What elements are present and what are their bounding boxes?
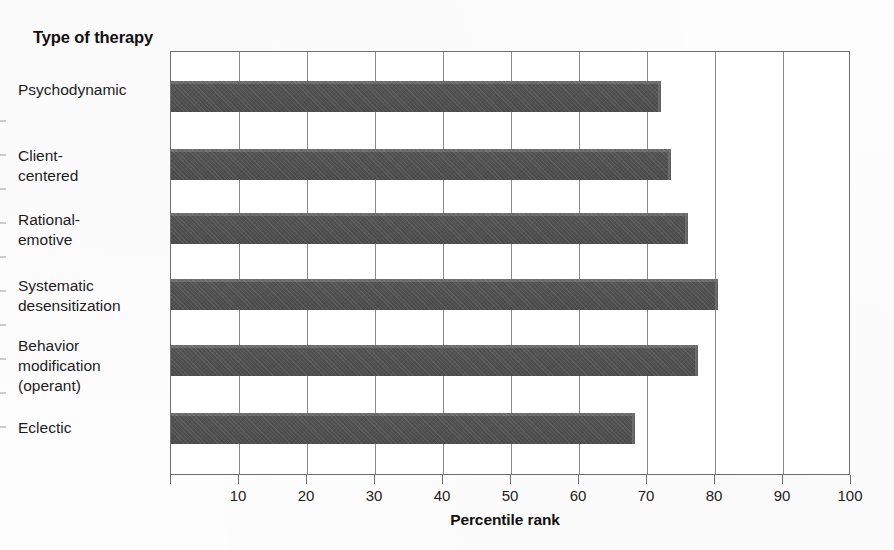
gridline-70 <box>647 52 648 474</box>
category-label: Eclectic <box>18 418 160 438</box>
bar <box>171 279 718 310</box>
bar <box>171 149 671 180</box>
gridline-50 <box>511 52 512 474</box>
x-tick-label-40: 40 <box>434 487 451 504</box>
x-tick-label-20: 20 <box>298 487 315 504</box>
category-label: Systematic desensitization <box>18 276 160 316</box>
gridline-10 <box>239 52 240 474</box>
category-label: Psychodynamic <box>18 80 160 100</box>
category-label: Client- centered <box>18 146 160 186</box>
bar <box>171 345 698 376</box>
x-tick-mark-70 <box>646 475 647 484</box>
category-label: Rational- emotive <box>18 210 160 250</box>
x-tick-mark-50 <box>510 475 511 484</box>
gridline-30 <box>375 52 376 474</box>
bar-end-cap <box>715 279 718 310</box>
x-tick-label-80: 80 <box>706 487 723 504</box>
gridline-60 <box>579 52 580 474</box>
bar-end-cap <box>658 81 661 112</box>
x-tick-label-70: 70 <box>638 487 655 504</box>
x-tick-mark-60 <box>578 475 579 484</box>
x-tick-mark-100 <box>850 475 851 484</box>
x-tick-mark-0 <box>170 475 171 484</box>
x-tick-mark-40 <box>442 475 443 484</box>
bar-end-cap <box>695 345 698 376</box>
bar-end-cap <box>668 149 671 180</box>
x-tick-label-30: 30 <box>366 487 383 504</box>
x-tick-label-60: 60 <box>570 487 587 504</box>
plot-area <box>170 51 850 475</box>
gridline-20 <box>307 52 308 474</box>
x-tick-mark-10 <box>238 475 239 484</box>
bar <box>171 81 661 112</box>
x-tick-label-50: 50 <box>502 487 519 504</box>
bar <box>171 213 688 244</box>
gridline-80 <box>715 52 716 474</box>
bar <box>171 413 635 444</box>
category-label-column: PsychodynamicClient- centeredRational- e… <box>0 0 168 550</box>
x-tick-label-10: 10 <box>230 487 247 504</box>
gridline-40 <box>443 52 444 474</box>
x-axis-label-container: Percentile rank <box>0 511 894 529</box>
bar-end-cap <box>632 413 635 444</box>
x-tick-mark-90 <box>782 475 783 484</box>
x-tick-label-100: 100 <box>837 487 862 504</box>
category-label: Behavior modification (operant) <box>18 336 160 396</box>
x-tick-mark-80 <box>714 475 715 484</box>
x-tick-mark-20 <box>306 475 307 484</box>
x-tick-label-90: 90 <box>774 487 791 504</box>
x-tick-mark-30 <box>374 475 375 484</box>
bar-chart-figure: Type of therapy PsychodynamicClient- cen… <box>0 0 894 550</box>
gridline-90 <box>783 52 784 474</box>
x-axis-label: Percentile rank <box>450 511 560 529</box>
bar-end-cap <box>685 213 688 244</box>
